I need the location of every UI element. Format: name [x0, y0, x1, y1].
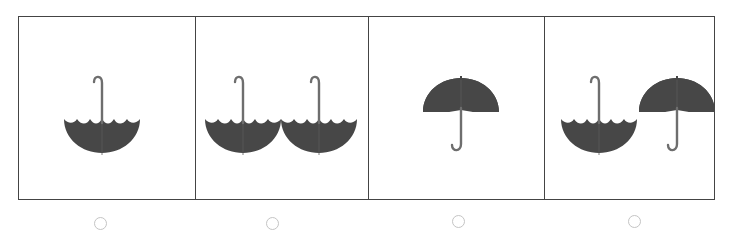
option-panel-c[interactable]: [368, 17, 544, 199]
two-umbrellas-upside-down-icon: [196, 17, 369, 201]
radio-option-c[interactable]: [452, 215, 465, 228]
umbrella-upright-icon: [369, 17, 545, 201]
umbrella-upside-down-icon: [19, 17, 195, 201]
option-panel-d[interactable]: [544, 17, 714, 199]
umbrella-upside-down-and-upright-icon: [545, 17, 719, 201]
options-frame: [18, 16, 715, 200]
radio-option-a[interactable]: [94, 217, 107, 230]
option-panel-a[interactable]: [19, 17, 195, 199]
option-panel-b[interactable]: [195, 17, 368, 199]
radio-option-b[interactable]: [266, 217, 279, 230]
radio-option-d[interactable]: [628, 215, 641, 228]
